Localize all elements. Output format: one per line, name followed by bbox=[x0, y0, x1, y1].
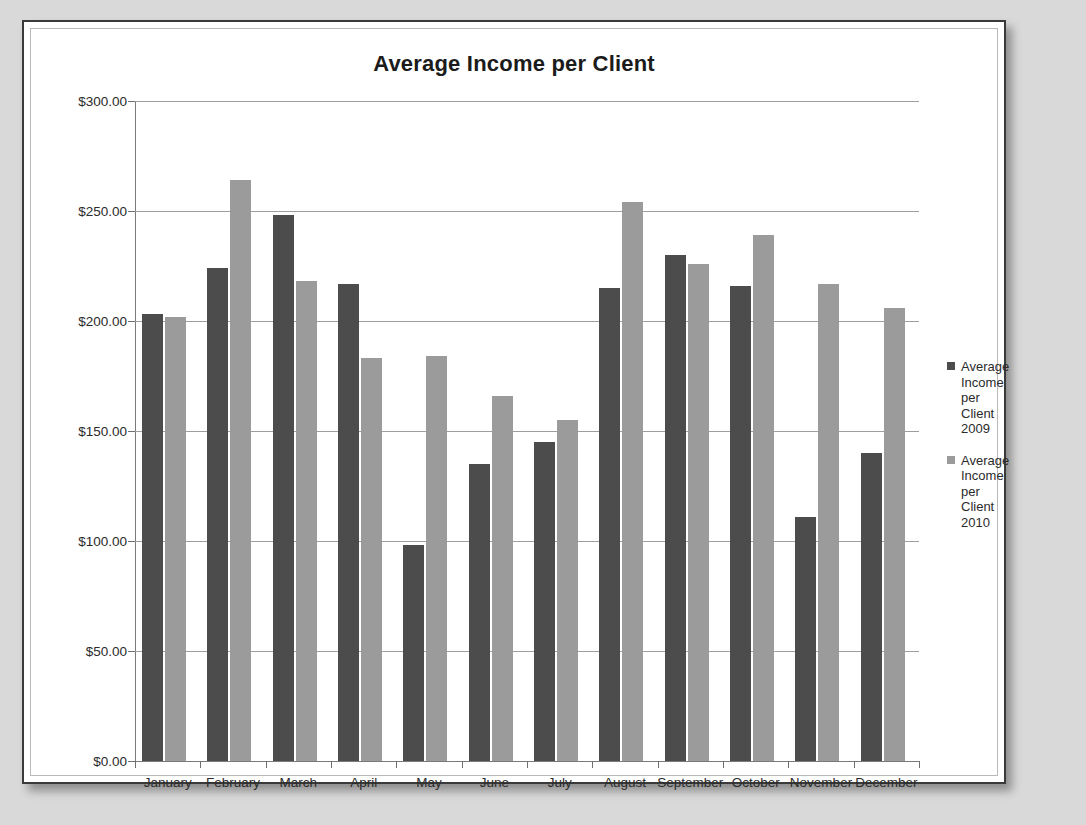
x-axis-label-october: October bbox=[732, 775, 780, 790]
bar-january-series1 bbox=[142, 314, 163, 761]
y-axis-tick-label: $100.00 bbox=[78, 534, 127, 549]
x-axis-label-february: February bbox=[206, 775, 260, 790]
bar-march-series2 bbox=[296, 281, 317, 761]
x-axis-label-may: May bbox=[416, 775, 442, 790]
bar-group bbox=[592, 101, 657, 761]
bar-january-series2 bbox=[165, 317, 186, 761]
bar-december-series1 bbox=[861, 453, 882, 761]
y-tick-300 bbox=[128, 101, 135, 102]
y-tick-0 bbox=[128, 761, 135, 762]
chart-canvas: Average Income per Client $300.00$250.00… bbox=[30, 28, 998, 776]
bar-group bbox=[658, 101, 723, 761]
bar-april-series2 bbox=[361, 358, 382, 761]
x-tick bbox=[527, 761, 528, 768]
x-tick bbox=[723, 761, 724, 768]
bar-group bbox=[527, 101, 592, 761]
y-axis-tick-label: $50.00 bbox=[86, 644, 127, 659]
x-axis-label-september: September bbox=[657, 775, 723, 790]
bar-group bbox=[462, 101, 527, 761]
x-tick bbox=[919, 761, 920, 768]
bar-group bbox=[396, 101, 461, 761]
bar-november-series2 bbox=[818, 284, 839, 761]
x-tick bbox=[592, 761, 593, 768]
bar-april-series1 bbox=[338, 284, 359, 761]
bar-august-series1 bbox=[599, 288, 620, 761]
bar-may-series2 bbox=[426, 356, 447, 761]
plot-area bbox=[135, 101, 919, 761]
y-axis-tick-label: $250.00 bbox=[78, 204, 127, 219]
legend-swatch-2009-icon bbox=[947, 362, 955, 370]
bar-december-series2 bbox=[884, 308, 905, 761]
bar-group bbox=[135, 101, 200, 761]
x-axis-label-july: July bbox=[548, 775, 572, 790]
x-axis-label-april: April bbox=[350, 775, 377, 790]
bar-march-series1 bbox=[273, 215, 294, 761]
bar-july-series2 bbox=[557, 420, 578, 761]
y-tick-50 bbox=[128, 651, 135, 652]
x-tick bbox=[200, 761, 201, 768]
x-axis-label-march: March bbox=[280, 775, 318, 790]
legend-entry-1[interactable]: Average Income per Client 2009 bbox=[947, 359, 1013, 437]
x-axis-label-june: June bbox=[480, 775, 509, 790]
y-tick-200 bbox=[128, 321, 135, 322]
x-axis: JanuaryFebruaryMarchAprilMayJuneJulyAugu… bbox=[135, 761, 919, 807]
bar-may-series1 bbox=[403, 545, 424, 761]
x-tick bbox=[396, 761, 397, 768]
bar-february-series1 bbox=[207, 268, 228, 761]
bar-group bbox=[854, 101, 919, 761]
y-axis-labels: $300.00$250.00$200.00$150.00$100.00$50.0… bbox=[31, 101, 127, 761]
bar-october-series1 bbox=[730, 286, 751, 761]
legend-entry-2[interactable]: Average Income per Client 2010 bbox=[947, 453, 1013, 531]
x-axis-label-august: August bbox=[604, 775, 646, 790]
y-axis-tick-label: $0.00 bbox=[93, 754, 127, 769]
x-tick bbox=[135, 761, 136, 768]
x-tick bbox=[331, 761, 332, 768]
bar-july-series1 bbox=[534, 442, 555, 761]
y-tick-100 bbox=[128, 541, 135, 542]
bar-october-series2 bbox=[753, 235, 774, 761]
bar-group bbox=[200, 101, 265, 761]
x-axis-label-november: November bbox=[790, 775, 852, 790]
y-tick-250 bbox=[128, 211, 135, 212]
chart-title: Average Income per Client bbox=[31, 51, 997, 77]
chart-legend: Average Income per Client 2009Average In… bbox=[947, 359, 1013, 546]
bar-group bbox=[788, 101, 853, 761]
x-tick bbox=[658, 761, 659, 768]
x-tick bbox=[788, 761, 789, 768]
bar-february-series2 bbox=[230, 180, 251, 761]
legend-swatch-2010-icon bbox=[947, 456, 955, 464]
legend-label: Average Income per Client 2009 bbox=[961, 359, 1013, 437]
chart-document-frame: Average Income per Client $300.00$250.00… bbox=[22, 20, 1006, 784]
bar-group bbox=[266, 101, 331, 761]
bar-group bbox=[723, 101, 788, 761]
bar-september-series1 bbox=[665, 255, 686, 761]
y-tick-150 bbox=[128, 431, 135, 432]
bar-group bbox=[331, 101, 396, 761]
y-axis-tick-label: $200.00 bbox=[78, 314, 127, 329]
x-tick bbox=[266, 761, 267, 768]
x-axis-label-december: December bbox=[855, 775, 917, 790]
y-axis-tick-label: $150.00 bbox=[78, 424, 127, 439]
x-axis-label-january: January bbox=[144, 775, 192, 790]
x-tick bbox=[854, 761, 855, 768]
bar-june-series2 bbox=[492, 396, 513, 761]
bar-september-series2 bbox=[688, 264, 709, 761]
legend-label: Average Income per Client 2010 bbox=[961, 453, 1013, 531]
bar-november-series1 bbox=[795, 517, 816, 761]
y-axis-tick-label: $300.00 bbox=[78, 94, 127, 109]
x-tick bbox=[462, 761, 463, 768]
bar-june-series1 bbox=[469, 464, 490, 761]
bar-august-series2 bbox=[622, 202, 643, 761]
